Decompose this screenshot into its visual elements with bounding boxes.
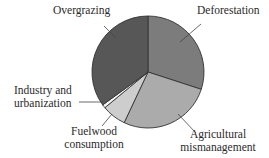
label-agricultural: Agricultural mismanagement [170, 128, 266, 154]
label-industry: Industry and urbanization [14, 84, 72, 110]
label-deforestation: Deforestation [197, 4, 260, 17]
pie-slices [92, 16, 204, 128]
label-industry-line2: urbanization [14, 97, 72, 110]
label-industry-line1: Industry and [14, 84, 72, 97]
label-fuelwood: Fuelwood consumption [58, 125, 130, 151]
label-agricultural-line2: mismanagement [170, 141, 266, 154]
label-fuelwood-line2: consumption [58, 138, 130, 151]
label-fuelwood-line1: Fuelwood [58, 125, 130, 138]
label-overgrazing: Overgrazing [53, 4, 110, 17]
label-agricultural-line1: Agricultural [170, 128, 266, 141]
